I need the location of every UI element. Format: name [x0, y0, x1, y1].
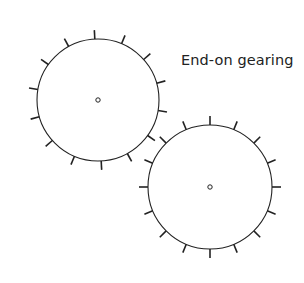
gear-tooth — [234, 121, 237, 129]
gear-tooth — [29, 88, 38, 90]
gear-left — [29, 30, 167, 170]
gear-tooth — [46, 140, 53, 146]
gear-tooth — [144, 160, 152, 163]
gear-tooth — [234, 244, 237, 252]
gear-tooth — [267, 160, 275, 163]
gear-tooth — [160, 137, 166, 143]
gear-tooth — [157, 81, 166, 83]
gear-tooth — [127, 154, 131, 162]
gear-left-rim — [37, 39, 159, 161]
gear-tooth — [64, 39, 68, 47]
gearing-diagram — [0, 0, 304, 283]
gear-tooth — [158, 110, 167, 112]
gear-tooth — [148, 135, 155, 140]
gear-tooth — [254, 231, 260, 237]
gear-tooth — [183, 244, 186, 252]
gear-tooth — [41, 59, 48, 64]
gear-tooth — [183, 121, 186, 129]
gear-tooth — [144, 211, 152, 214]
gear-tooth — [71, 156, 74, 164]
gear-tooth — [122, 35, 125, 43]
gear-right-rim — [148, 125, 272, 249]
gear-tooth — [160, 231, 166, 237]
gear-tooth — [254, 137, 260, 143]
gear-tooth — [31, 117, 40, 119]
gear-tooth — [267, 211, 275, 214]
diagram-caption: End-on gearing — [181, 52, 294, 68]
gear-tooth — [144, 54, 151, 60]
gear-right — [139, 116, 281, 258]
